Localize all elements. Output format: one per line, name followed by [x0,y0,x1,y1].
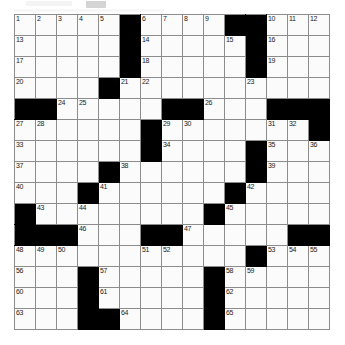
grid-cell-open[interactable] [225,57,246,78]
grid-cell-open[interactable]: 49 [36,246,57,267]
grid-cell-open[interactable] [183,57,204,78]
grid-cell-open[interactable]: 50 [57,246,78,267]
grid-cell-open[interactable] [309,162,330,183]
grid-cell-open[interactable] [288,57,309,78]
grid-cell-open[interactable] [99,225,120,246]
grid-cell-open[interactable] [162,36,183,57]
grid-cell-open[interactable] [36,183,57,204]
grid-cell-open[interactable]: 26 [204,99,225,120]
grid-cell-open[interactable]: 23 [246,78,267,99]
grid-cell-open[interactable]: 55 [309,246,330,267]
grid-cell-open[interactable] [183,246,204,267]
grid-cell-open[interactable] [183,309,204,330]
grid-cell-open[interactable] [120,183,141,204]
grid-cell-open[interactable] [57,267,78,288]
grid-cell-open[interactable] [183,78,204,99]
grid-cell-open[interactable] [99,36,120,57]
grid-cell-open[interactable] [162,267,183,288]
grid-cell-open[interactable]: 16 [267,36,288,57]
grid-cell-open[interactable] [309,309,330,330]
grid-cell-open[interactable]: 19 [267,57,288,78]
grid-cell-open[interactable] [141,99,162,120]
grid-cell-open[interactable] [288,204,309,225]
grid-cell-open[interactable]: 45 [225,204,246,225]
grid-cell-open[interactable] [78,78,99,99]
grid-cell-open[interactable] [57,36,78,57]
grid-cell-open[interactable] [57,162,78,183]
grid-cell-open[interactable] [57,309,78,330]
grid-cell-open[interactable] [57,183,78,204]
grid-cell-open[interactable] [267,225,288,246]
grid-cell-open[interactable] [309,267,330,288]
grid-cell-open[interactable] [99,99,120,120]
grid-cell-open[interactable] [309,57,330,78]
grid-cell-open[interactable] [246,288,267,309]
grid-cell-open[interactable] [78,162,99,183]
grid-cell-open[interactable]: 57 [99,267,120,288]
grid-cell-open[interactable]: 31 [267,120,288,141]
grid-cell-open[interactable] [204,141,225,162]
grid-cell-open[interactable] [288,78,309,99]
grid-cell-open[interactable]: 3 [57,15,78,36]
grid-cell-open[interactable]: 60 [15,288,36,309]
grid-cell-open[interactable] [225,120,246,141]
grid-cell-open[interactable]: 12 [309,15,330,36]
grid-cell-open[interactable] [57,78,78,99]
grid-cell-open[interactable] [120,204,141,225]
grid-cell-open[interactable] [204,78,225,99]
grid-cell-open[interactable] [36,267,57,288]
grid-cell-open[interactable] [309,78,330,99]
grid-cell-open[interactable]: 28 [36,120,57,141]
grid-cell-open[interactable] [309,36,330,57]
grid-cell-open[interactable]: 33 [15,141,36,162]
grid-cell-open[interactable]: 56 [15,267,36,288]
grid-cell-open[interactable] [204,183,225,204]
grid-cell-open[interactable] [141,204,162,225]
crossword-grid[interactable]: 1234567891011121314151617181920212223242… [14,14,330,330]
grid-cell-open[interactable] [78,246,99,267]
grid-cell-open[interactable]: 24 [57,99,78,120]
grid-cell-open[interactable] [288,309,309,330]
grid-cell-open[interactable] [204,225,225,246]
grid-cell-open[interactable] [225,162,246,183]
grid-cell-open[interactable] [288,141,309,162]
grid-cell-open[interactable] [288,267,309,288]
grid-cell-open[interactable]: 14 [141,36,162,57]
grid-cell-open[interactable]: 27 [15,120,36,141]
grid-cell-open[interactable]: 5 [99,15,120,36]
grid-cell-open[interactable] [204,57,225,78]
grid-cell-open[interactable] [36,309,57,330]
grid-cell-open[interactable] [36,78,57,99]
grid-cell-open[interactable] [120,246,141,267]
grid-cell-open[interactable] [162,78,183,99]
grid-cell-open[interactable] [57,141,78,162]
grid-cell-open[interactable]: 46 [78,225,99,246]
grid-cell-open[interactable]: 7 [162,15,183,36]
grid-cell-open[interactable]: 51 [141,246,162,267]
grid-cell-open[interactable]: 32 [288,120,309,141]
grid-cell-open[interactable] [309,288,330,309]
grid-cell-open[interactable]: 40 [15,183,36,204]
grid-cell-open[interactable] [57,57,78,78]
grid-cell-open[interactable]: 36 [309,141,330,162]
grid-cell-open[interactable] [246,204,267,225]
grid-cell-open[interactable] [162,57,183,78]
grid-cell-open[interactable] [225,99,246,120]
grid-cell-open[interactable]: 15 [225,36,246,57]
grid-cell-open[interactable]: 8 [183,15,204,36]
grid-cell-open[interactable] [183,36,204,57]
grid-cell-open[interactable] [267,309,288,330]
grid-cell-open[interactable] [267,183,288,204]
grid-cell-open[interactable] [120,141,141,162]
grid-cell-open[interactable] [246,309,267,330]
grid-cell-open[interactable] [120,99,141,120]
grid-cell-open[interactable]: 20 [15,78,36,99]
grid-cell-open[interactable] [162,309,183,330]
grid-cell-open[interactable] [36,57,57,78]
grid-cell-open[interactable]: 54 [288,246,309,267]
grid-cell-open[interactable] [267,204,288,225]
grid-cell-open[interactable]: 13 [15,36,36,57]
grid-cell-open[interactable] [99,57,120,78]
grid-cell-open[interactable]: 4 [78,15,99,36]
grid-cell-open[interactable] [183,267,204,288]
